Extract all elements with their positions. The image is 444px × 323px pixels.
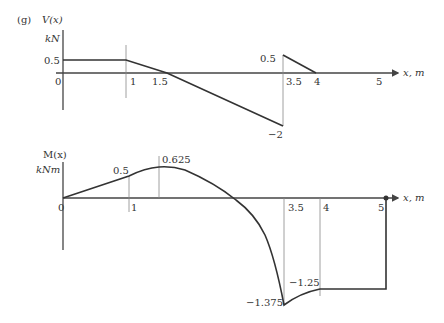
shear-title: V(x) [42,14,63,25]
shear-tick-1: 1 [130,76,136,87]
moment-x-label: x, m [403,192,424,203]
moment-unit: kNm [36,164,60,175]
shear-origin: 0 [55,76,61,87]
shear-unit: kN [45,33,61,44]
moment-curve [63,167,386,305]
end-point-marker [384,196,389,201]
moment-origin: 0 [58,202,64,213]
shear-x-label: x, m [403,67,424,78]
shear-tick-3.5: 3.5 [286,76,302,87]
moment-label-1.25: −1.25 [289,277,320,288]
moment-label-0.5: 0.5 [113,165,129,176]
shear-curve-left [63,60,283,126]
shear-curve-right [283,55,316,73]
shear-label-min: −2 [268,129,283,140]
moment-label-1.375: −1.375 [246,297,283,308]
moment-tick-1: 1 [131,202,137,213]
shear-diagram: (g) V(x) kN x, m 0 0.5 0.5 −2 1 1.5 3.5 … [17,14,424,140]
figure-label: (g) [17,14,31,25]
moment-title: M(x) [43,149,67,160]
shear-label-0.5: 0.5 [44,55,60,66]
moment-diagram: M(x) kNm x, m 0 0.5 0.625 −1.25 −1.375 1… [36,149,424,308]
moment-tick-4: 4 [323,202,329,213]
moment-tick-3.5: 3.5 [288,202,304,213]
shear-label-jump: 0.5 [260,53,276,64]
moment-tick-5: 5 [378,202,384,213]
shear-tick-5: 5 [376,76,382,87]
moment-label-peak: 0.625 [162,154,191,165]
shear-tick-4: 4 [314,76,320,87]
diagram-canvas: (g) V(x) kN x, m 0 0.5 0.5 −2 1 1.5 3.5 … [0,0,444,323]
shear-tick-1.5: 1.5 [152,76,168,87]
